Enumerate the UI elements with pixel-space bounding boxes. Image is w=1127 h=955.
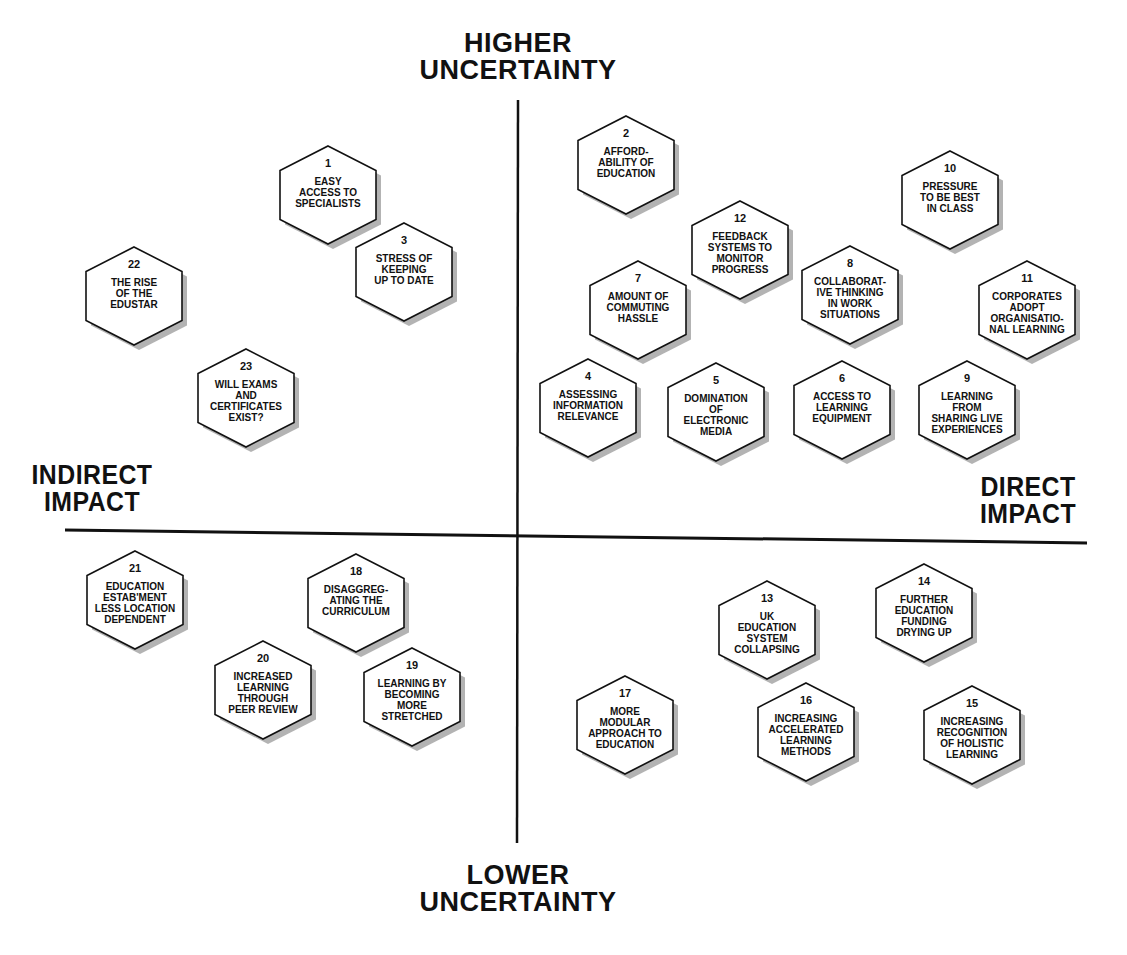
axis-label-indirect-impact: INDIRECT IMPACT xyxy=(18,462,165,516)
factor-hexagon-9: 9LEARNING FROM SHARING LIVE EXPERIENCES xyxy=(919,361,1019,461)
axis-label-direct-impact: DIRECT IMPACT xyxy=(964,474,1093,528)
factor-number: 8 xyxy=(802,257,898,269)
factor-label: MORE MODULAR APPROACH TO EDUCATION xyxy=(581,706,669,750)
factor-number: 22 xyxy=(86,258,182,270)
axis-label-higher-uncertainty: HIGHER UNCERTAINTY xyxy=(418,30,618,84)
factor-label: DISAGGREG- ATING THE CURRICULUM xyxy=(312,584,400,617)
factor-hexagon-3: 3STRESS OF KEEPING UP TO DATE xyxy=(356,223,456,323)
factor-number: 14 xyxy=(876,575,972,587)
quadrant-axes xyxy=(0,0,1127,955)
factor-label: COLLABORAT- IVE THINKING IN WORK SITUATI… xyxy=(806,276,894,320)
factor-number: 1 xyxy=(280,157,376,169)
factor-number: 20 xyxy=(215,652,311,664)
factor-label: PRESSURE TO BE BEST IN CLASS xyxy=(906,181,994,214)
axis-label-lower-uncertainty: LOWER UNCERTAINTY xyxy=(418,862,618,916)
vertical-axis-line xyxy=(517,100,518,843)
factor-label: DOMINATION OF ELECTRONIC MEDIA xyxy=(672,393,760,437)
factor-hexagon-15: 15INCREASING RECOGNITION OF HOLISTIC LEA… xyxy=(924,686,1024,786)
factor-number: 23 xyxy=(198,360,294,372)
factor-number: 5 xyxy=(668,374,764,386)
factor-hexagon-10: 10PRESSURE TO BE BEST IN CLASS xyxy=(902,151,1002,251)
factor-number: 7 xyxy=(590,272,686,284)
factor-number: 3 xyxy=(356,234,452,246)
factor-hexagon-18: 18DISAGGREG- ATING THE CURRICULUM xyxy=(308,554,408,654)
factor-label: INCREASING ACCELERATED LEARNING METHODS xyxy=(762,713,850,757)
factor-number: 9 xyxy=(919,372,1015,384)
factor-number: 18 xyxy=(308,565,404,577)
factor-number: 4 xyxy=(540,370,636,382)
factor-hexagon-19: 19LEARNING BY BECOMING MORE STRETCHED xyxy=(364,648,464,748)
factor-number: 2 xyxy=(578,127,674,139)
factor-label: AMOUNT OF COMMUTING HASSLE xyxy=(594,291,682,324)
factor-hexagon-16: 16INCREASING ACCELERATED LEARNING METHOD… xyxy=(758,683,858,783)
factor-label: INCREASING RECOGNITION OF HOLISTIC LEARN… xyxy=(928,716,1016,760)
factor-hexagon-22: 22THE RISE OF THE EDUSTAR xyxy=(86,247,186,347)
factor-number: 19 xyxy=(364,659,460,671)
factor-label: AFFORD- ABILITY OF EDUCATION xyxy=(582,146,670,179)
factor-hexagon-11: 11CORPORATES ADOPT ORGANISATIO- NAL LEAR… xyxy=(979,261,1079,361)
factor-hexagon-12: 12FEEDBACK SYSTEMS TO MONITOR PROGRESS xyxy=(692,201,792,301)
factor-label: FEEDBACK SYSTEMS TO MONITOR PROGRESS xyxy=(696,231,784,275)
factor-hexagon-23: 23WILL EXAMS AND CERTIFICATES EXIST? xyxy=(198,349,298,449)
factor-number: 15 xyxy=(924,697,1020,709)
factor-number: 16 xyxy=(758,694,854,706)
factor-hexagon-2: 2AFFORD- ABILITY OF EDUCATION xyxy=(578,116,678,216)
factor-number: 21 xyxy=(87,562,183,574)
factor-number: 10 xyxy=(902,162,998,174)
factor-label: LEARNING BY BECOMING MORE STRETCHED xyxy=(368,678,456,722)
factor-hexagon-13: 13UK EDUCATION SYSTEM COLLAPSING xyxy=(719,581,819,681)
factor-label: UK EDUCATION SYSTEM COLLAPSING xyxy=(723,611,811,655)
factor-number: 11 xyxy=(979,272,1075,284)
factor-label: EDUCATION ESTAB'MENT LESS LOCATION DEPEN… xyxy=(91,581,179,625)
factor-label: WILL EXAMS AND CERTIFICATES EXIST? xyxy=(202,379,290,423)
factor-label: CORPORATES ADOPT ORGANISATIO- NAL LEARNI… xyxy=(983,291,1071,335)
factor-hexagon-6: 6ACCESS TO LEARNING EQUIPMENT xyxy=(794,361,894,461)
factor-label: EASY ACCESS TO SPECIALISTS xyxy=(284,176,372,209)
factor-hexagon-21: 21EDUCATION ESTAB'MENT LESS LOCATION DEP… xyxy=(87,551,187,651)
factor-hexagon-20: 20INCREASED LEARNING THROUGH PEER REVIEW xyxy=(215,641,315,741)
factor-number: 17 xyxy=(577,687,673,699)
factor-hexagon-14: 14FURTHER EDUCATION FUNDING DRYING UP xyxy=(876,564,976,664)
factor-number: 12 xyxy=(692,212,788,224)
horizontal-axis-line xyxy=(65,530,1087,543)
factor-number: 13 xyxy=(719,592,815,604)
factor-label: STRESS OF KEEPING UP TO DATE xyxy=(360,253,448,286)
factor-label: LEARNING FROM SHARING LIVE EXPERIENCES xyxy=(923,391,1011,435)
factor-hexagon-4: 4ASSESSING INFORMATION RELEVANCE xyxy=(540,359,640,459)
factor-hexagon-7: 7AMOUNT OF COMMUTING HASSLE xyxy=(590,261,690,361)
factor-label: ASSESSING INFORMATION RELEVANCE xyxy=(544,389,632,422)
factor-label: THE RISE OF THE EDUSTAR xyxy=(90,277,178,310)
factor-label: INCREASED LEARNING THROUGH PEER REVIEW xyxy=(219,671,307,715)
factor-hexagon-17: 17MORE MODULAR APPROACH TO EDUCATION xyxy=(577,676,677,776)
factor-hexagon-8: 8COLLABORAT- IVE THINKING IN WORK SITUAT… xyxy=(802,246,902,346)
factor-label: FURTHER EDUCATION FUNDING DRYING UP xyxy=(880,594,968,638)
factor-number: 6 xyxy=(794,372,890,384)
factor-hexagon-5: 5DOMINATION OF ELECTRONIC MEDIA xyxy=(668,363,768,463)
factor-label: ACCESS TO LEARNING EQUIPMENT xyxy=(798,391,886,424)
